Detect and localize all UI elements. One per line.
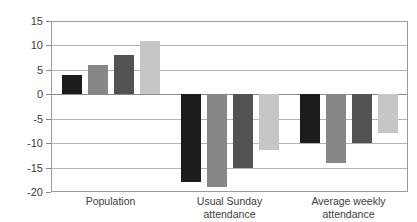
y-tick-label: 0	[3, 88, 43, 100]
bar	[259, 94, 279, 150]
y-tick-label: 5	[3, 64, 43, 76]
bars-layer	[51, 21, 408, 192]
bar	[233, 94, 253, 167]
x-axis-category-label: Usual Sundayattendance	[170, 195, 289, 220]
bar	[300, 94, 320, 143]
y-tick-label: -10	[3, 137, 43, 149]
y-tick-mark	[46, 192, 51, 193]
bar	[326, 94, 346, 162]
y-tick-label: 15	[3, 15, 43, 27]
bar	[114, 55, 134, 94]
x-axis-category-label: Population	[51, 195, 170, 208]
y-tick-label: 10	[3, 39, 43, 51]
bar	[207, 94, 227, 187]
bar	[352, 94, 372, 143]
y-tick-label: -20	[3, 186, 43, 198]
y-tick-label: -5	[3, 113, 43, 125]
y-tick-label: -15	[3, 162, 43, 174]
x-axis-category-line: Average weekly	[289, 195, 408, 208]
bar-chart: 151050-5-10-15-20 PopulationUsual Sunday…	[0, 0, 417, 222]
x-axis-category-line: attendance	[170, 208, 289, 221]
bar	[88, 65, 108, 94]
x-axis-category-line: Population	[51, 195, 170, 208]
x-axis-category-line: attendance	[289, 208, 408, 221]
x-axis-labels: PopulationUsual SundayattendanceAverage …	[51, 195, 408, 222]
bar	[140, 41, 160, 95]
x-axis-category-label: Average weeklyattendance	[289, 195, 408, 220]
x-axis-category-line: Usual Sunday	[170, 195, 289, 208]
bar	[62, 75, 82, 95]
bar	[181, 94, 201, 182]
bar	[378, 94, 398, 133]
